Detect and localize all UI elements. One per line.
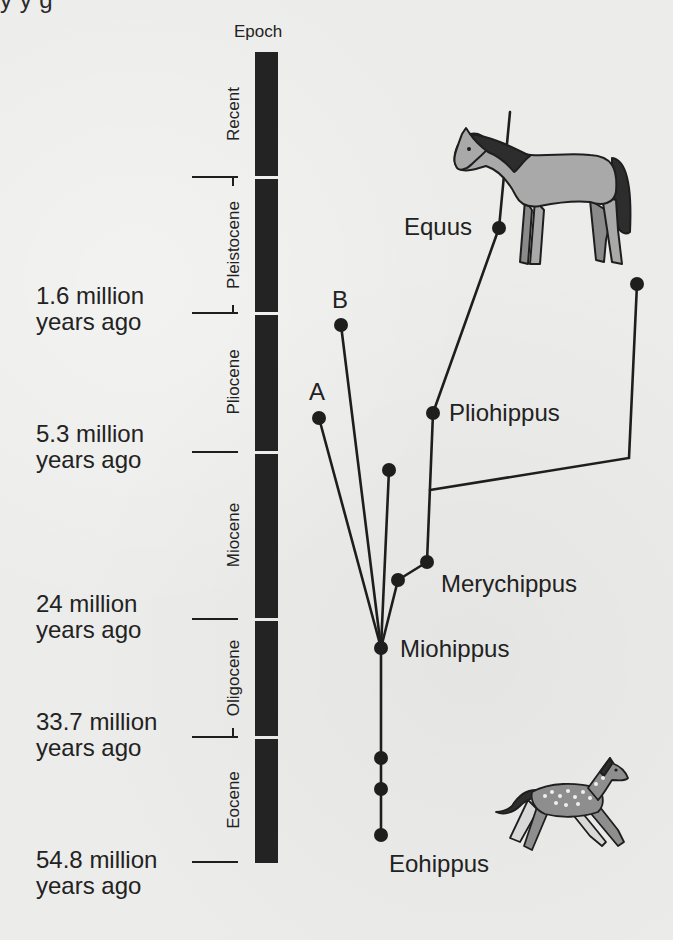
epoch-label-eocene: Eocene: [224, 764, 244, 836]
epoch-label-miocene: Miocene: [224, 495, 244, 575]
age-label-24-mya: 24 million years ago: [36, 591, 141, 643]
node-branch-b: [334, 318, 348, 332]
age-label-54-8-mya: 54.8 million years ago: [36, 847, 157, 899]
eohippus-illustration: [496, 758, 628, 850]
cropped-header-text: y y g: [0, 0, 673, 14]
taxon-label-miohippus: Miohippus: [400, 635, 509, 663]
epoch-column-title: Epoch: [234, 22, 282, 42]
epoch-bar: [255, 52, 278, 863]
taxon-label-eohippus: Eohippus: [389, 850, 489, 878]
phylogeny-lines: [319, 112, 637, 835]
taxon-label-pliohippus: Pliohippus: [449, 399, 560, 427]
node-eocene-2: [374, 782, 388, 796]
phylogeny-nodes: [312, 221, 644, 842]
taxon-label-equus: Equus: [404, 213, 472, 241]
epoch-label-oligocene: Oligocene: [224, 634, 244, 722]
node-eocene-3: [374, 751, 388, 765]
node-miohippus: [374, 641, 388, 655]
epoch-label-pliocene: Pliocene: [224, 342, 244, 422]
epoch-label-recent: Recent: [224, 79, 244, 149]
node-miocene-deadend: [382, 463, 396, 477]
node-merychippus: [420, 555, 434, 569]
age-label-5-3-mya: 5.3 million years ago: [36, 421, 144, 473]
node-eohippus: [374, 828, 388, 842]
taxon-label-merychippus: Merychippus: [441, 570, 577, 598]
node-pliohippus: [426, 406, 440, 420]
modern-horse-illustration: [454, 128, 630, 264]
branch-label-b: B: [332, 286, 348, 314]
age-label-1-6-mya: 1.6 million years ago: [36, 283, 144, 335]
node-branch-a: [312, 411, 326, 425]
branch-label-a: A: [309, 378, 325, 406]
node-side-branch: [630, 277, 644, 291]
age-label-33-7-mya: 33.7 million years ago: [36, 709, 157, 761]
node-miocene-intermediate: [391, 573, 405, 587]
node-equus: [492, 221, 506, 235]
epoch-label-pleistocene: Pleistocene: [224, 191, 244, 299]
